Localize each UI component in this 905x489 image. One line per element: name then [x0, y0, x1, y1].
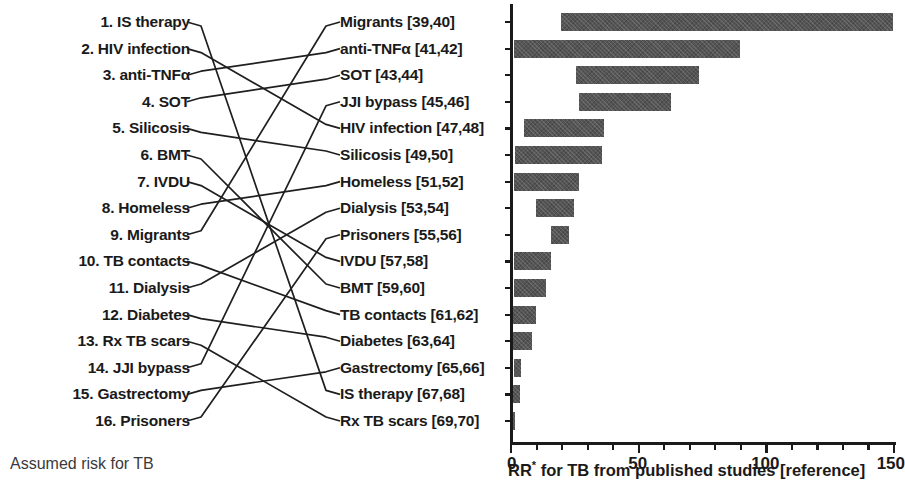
assumed-risk-item-label: Gastrectomy — [93, 385, 190, 402]
x-axis-minor-tick — [816, 445, 818, 450]
published-rr-item-label: BMT — [340, 279, 373, 296]
bar — [514, 40, 740, 58]
published-rr-item-refs: [53,54] — [397, 199, 449, 216]
published-rr-item-refs: [51,52] — [412, 173, 464, 190]
bar — [576, 66, 699, 84]
assumed-risk-item-label: Diabetes — [123, 306, 190, 323]
published-rr-item: Migrants [39,40] — [340, 14, 455, 30]
bar — [524, 119, 604, 137]
assumed-risk-item-label: HIV infection — [94, 40, 190, 57]
y-axis-tick — [505, 234, 510, 236]
published-rr-item-refs: [69,70] — [427, 412, 479, 429]
y-axis-tick — [505, 154, 510, 156]
assumed-risk-item-rank: 15. — [72, 385, 93, 402]
published-rr-item-refs: [39,40] — [403, 13, 455, 30]
bar — [515, 146, 602, 164]
assumed-risk-item: 11. Dialysis — [109, 280, 190, 296]
rank-connector-line — [187, 368, 340, 395]
assumed-risk-item-rank: 3. — [103, 66, 116, 83]
assumed-risk-item-label: SOT — [155, 93, 190, 110]
published-rr-item-refs: [63,64] — [403, 332, 455, 349]
published-rr-item-label: IS therapy — [340, 385, 413, 402]
assumed-risk-item: 15. Gastrectomy — [72, 386, 190, 402]
published-rr-item-refs: [67,68] — [413, 385, 465, 402]
rank-connector-line — [187, 208, 340, 288]
assumed-risk-item-label: Silicosis — [125, 119, 190, 136]
rank-connector-line — [187, 22, 340, 394]
x-axis-major-tick — [638, 445, 640, 453]
published-rr-item-label: Silicosis — [340, 146, 401, 163]
assumed-risk-item-label: TB contacts — [99, 252, 190, 269]
assumed-risk-item-label: Prisoners — [116, 412, 190, 429]
x-axis-minor-tick — [867, 445, 869, 450]
published-rr-item: BMT [59,60] — [340, 280, 425, 296]
x-axis-major-tick — [893, 445, 895, 453]
published-rr-list: Migrants [39,40]anti-TNFα [41,42]SOT [43… — [340, 0, 515, 440]
rank-connector-line — [187, 261, 340, 314]
left-axis-caption: Assumed risk for TB — [10, 456, 154, 472]
assumed-risk-item-rank: 5. — [112, 119, 125, 136]
published-rr-item-refs: [41,42] — [411, 40, 463, 57]
published-rr-item: IVDU [57,58] — [340, 253, 428, 269]
x-axis-caption-suffix: for TB from published studies [reference… — [536, 461, 865, 479]
rank-connector-line — [187, 155, 340, 288]
y-axis-tick — [505, 207, 510, 209]
assumed-risk-item-label: Homeless — [114, 199, 190, 216]
published-rr-item-refs: [55,56] — [410, 226, 462, 243]
published-rr-item-refs: [49,50] — [401, 146, 453, 163]
rank-connector-line — [187, 49, 340, 129]
assumed-risk-item: 7. IVDU — [137, 174, 190, 190]
published-rr-item: Dialysis [53,54] — [340, 200, 449, 216]
assumed-risk-list: 1. IS therapy2. HIV infection3. anti-TNF… — [0, 0, 190, 440]
x-axis-major-tick — [510, 445, 512, 453]
bar — [579, 93, 671, 111]
x-axis-minor-tick — [536, 445, 538, 450]
assumed-risk-item-label: JJI bypass — [109, 359, 190, 376]
assumed-risk-item: 10. TB contacts — [78, 253, 190, 269]
y-axis-tick — [505, 127, 510, 129]
assumed-risk-item-rank: 12. — [102, 306, 123, 323]
assumed-risk-item-label: BMT — [153, 146, 190, 163]
assumed-risk-item-rank: 7. — [137, 173, 150, 190]
published-rr-item: Gastrectomy [65,66] — [340, 360, 484, 376]
published-rr-item: Prisoners [55,56] — [340, 227, 462, 243]
bar — [514, 173, 579, 191]
assumed-risk-item: 16. Prisoners — [95, 413, 190, 429]
published-rr-item-label: TB contacts — [340, 306, 427, 323]
y-axis-tick — [505, 393, 510, 395]
x-axis-minor-tick — [689, 445, 691, 450]
published-rr-item-label: Diabetes — [340, 332, 403, 349]
assumed-risk-item: 9. Migrants — [110, 227, 190, 243]
y-axis-tick — [505, 21, 510, 23]
x-axis-minor-tick — [714, 445, 716, 450]
published-rr-item-refs: [65,66] — [433, 359, 485, 376]
published-rr-item-label: Migrants — [340, 13, 403, 30]
published-rr-item: anti-TNFα [41,42] — [340, 41, 462, 57]
x-axis-minor-tick — [663, 445, 665, 450]
assumed-risk-item: 12. Diabetes — [102, 307, 190, 323]
x-axis-minor-tick — [587, 445, 589, 450]
x-axis-minor-tick — [612, 445, 614, 450]
rank-connector-line — [187, 341, 340, 421]
y-axis-tick — [505, 367, 510, 369]
rank-connector-line — [187, 75, 340, 102]
rank-connector-line — [187, 128, 340, 155]
published-rr-item-label: IVDU — [340, 252, 376, 269]
assumed-risk-item-rank: 9. — [110, 226, 123, 243]
assumed-risk-item: 8. Homeless — [102, 200, 190, 216]
published-rr-item: JJI bypass [45,46] — [340, 94, 469, 110]
y-axis-tick — [505, 420, 510, 422]
x-axis-minor-tick — [791, 445, 793, 450]
bar — [551, 226, 569, 244]
assumed-risk-item-label: Migrants — [123, 226, 190, 243]
assumed-risk-item-rank: 14. — [88, 359, 109, 376]
rank-connector-line — [187, 102, 340, 368]
x-axis-minor-tick — [842, 445, 844, 450]
assumed-risk-item: 6. BMT — [140, 147, 190, 163]
published-rr-item: Silicosis [49,50] — [340, 147, 453, 163]
published-rr-item-refs: [45,46] — [417, 93, 469, 110]
bar — [513, 306, 536, 324]
assumed-risk-item: 5. Silicosis — [112, 120, 190, 136]
y-axis-tick — [505, 340, 510, 342]
published-rr-item-refs: [43,44] — [371, 66, 423, 83]
